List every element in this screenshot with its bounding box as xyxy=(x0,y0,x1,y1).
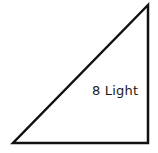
right-triangle-shape xyxy=(13,5,148,143)
triangle-label: 8 Light xyxy=(92,83,138,98)
triangle-diagram xyxy=(0,0,158,153)
